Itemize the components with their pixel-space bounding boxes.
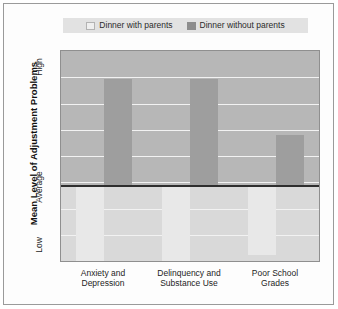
y-tick-low: Low [34, 230, 44, 260]
bar-without-parents [276, 135, 304, 186]
bar-with-parents [162, 186, 190, 261]
bar-without-parents [104, 79, 132, 186]
bar-without-parents [190, 79, 218, 186]
y-tick-high: High [34, 50, 44, 84]
legend-label-dinner-with-parents: Dinner with parents [99, 21, 172, 30]
x-tick-delinquency-and-substance-use: Delinquency and Substance Use [143, 268, 235, 288]
gridline [61, 77, 319, 78]
plot-area [60, 50, 320, 262]
legend-entry-dinner-without-parents[interactable]: Dinner without parents [187, 21, 285, 30]
legend-swatch-light-icon [86, 22, 95, 30]
y-tick-average: Average [34, 164, 44, 210]
bar-with-parents [248, 186, 276, 255]
bar-with-parents [76, 186, 104, 261]
x-tick-anxiety-and-depression: Anxiety and Depression [57, 268, 149, 288]
chart-figure: Dinner with parents Dinner without paren… [0, 0, 338, 309]
average-reference-line [61, 185, 319, 187]
x-tick-poor-school-grades: Poor School Grades [229, 268, 321, 288]
legend-entry-dinner-with-parents[interactable]: Dinner with parents [86, 21, 172, 30]
legend-swatch-dark-icon [187, 22, 196, 30]
chart-legend: Dinner with parents Dinner without paren… [63, 18, 308, 33]
legend-label-dinner-without-parents: Dinner without parents [200, 21, 285, 30]
